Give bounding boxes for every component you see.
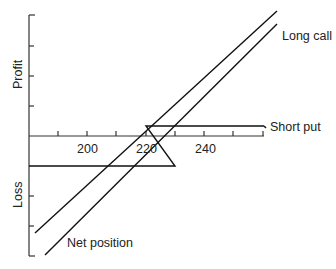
y-label-loss: Loss <box>11 182 25 208</box>
net-position-line <box>45 24 277 255</box>
long-call-line <box>35 11 277 233</box>
label-net-position: Net position <box>67 236 133 250</box>
label-short-put: Short put <box>270 120 321 134</box>
tick-label-220: 220 <box>136 142 157 156</box>
y-label-profit: Profit <box>11 59 25 89</box>
payoff-chart: 200 220 240 Long call Short put Net posi… <box>0 0 336 269</box>
tick-label-240: 240 <box>195 142 216 156</box>
tick-label-200: 200 <box>77 142 98 156</box>
label-long-call: Long call <box>282 29 332 43</box>
